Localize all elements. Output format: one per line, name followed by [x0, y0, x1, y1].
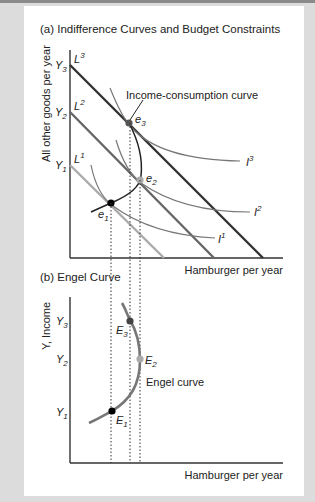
- label-e2: e2: [146, 172, 157, 187]
- panel-b-y-tick-y2: Y2: [56, 353, 68, 368]
- label-l1: L1: [74, 151, 85, 165]
- label-e3: e3: [135, 113, 146, 128]
- engel-figure: (a) Indifference Curves and Budget Const…: [0, 0, 315, 502]
- panel-a-x-axis-label: Hamburger per year: [185, 264, 284, 276]
- label-e1: e1: [98, 208, 109, 223]
- svg-text:Y2: Y2: [55, 106, 67, 121]
- panel-b-y-tick-y1: Y1: [56, 406, 68, 421]
- panel-b-y-axis-label: Y, Income: [40, 302, 52, 350]
- svg-text:Y3: Y3: [56, 315, 68, 330]
- label-i3: I3: [246, 154, 254, 168]
- svg-text:Y1: Y1: [56, 406, 68, 421]
- svg-text:Y3: Y3: [55, 59, 67, 74]
- panel-b-x-axis-label: Hamburger per year: [185, 469, 284, 481]
- svg-text:Y1: Y1: [55, 159, 67, 174]
- panel-a-y-tick-y2: Y2: [55, 106, 67, 121]
- panel-a-title: (a) Indifference Curves and Budget Const…: [40, 23, 280, 35]
- label-E2: E2: [145, 354, 157, 369]
- indifference-curve-i2: [116, 140, 250, 212]
- label-E3: E3: [116, 324, 128, 339]
- panel-a-y-tick-y3: Y3: [55, 59, 67, 74]
- icc-label: Income-consumption curve: [126, 89, 258, 101]
- label-E1: E1: [116, 414, 128, 429]
- panel-a-y-tick-y1: Y1: [55, 159, 67, 174]
- label-i2: I2: [254, 204, 262, 218]
- panel-b-title: (b) Engel Curve: [40, 271, 121, 283]
- engel-curve-label: Engel curve: [146, 376, 204, 388]
- panel-a-y-axis-label: All other goods per year: [40, 45, 52, 162]
- point-E2: [136, 355, 143, 362]
- label-l2: L2: [74, 98, 85, 112]
- label-i1: I1: [218, 231, 226, 245]
- point-E1: [108, 407, 115, 414]
- income-consumption-curve: [91, 123, 141, 212]
- point-e3: [125, 119, 132, 126]
- panel-b-y-tick-y3: Y3: [56, 315, 68, 330]
- point-E3: [126, 317, 133, 324]
- svg-text:Y2: Y2: [56, 353, 68, 368]
- label-l3: L3: [74, 51, 85, 65]
